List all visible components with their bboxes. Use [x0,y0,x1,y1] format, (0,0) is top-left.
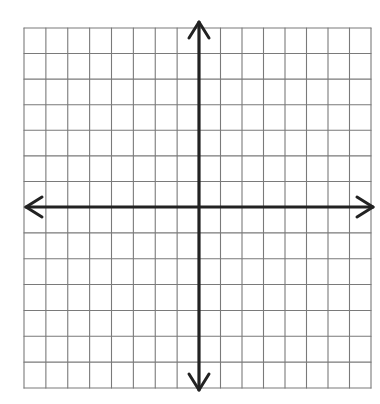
coordinate-grid-svg [0,0,380,404]
axes [26,22,373,390]
